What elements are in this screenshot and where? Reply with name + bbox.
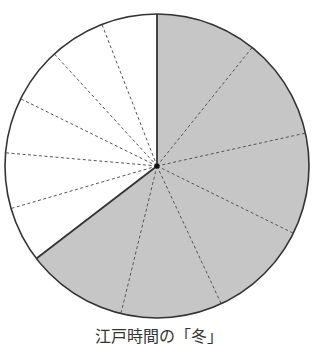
edo-winter-pie-chart: [0, 0, 317, 322]
chart-caption: 江戸時間の「冬」: [0, 322, 317, 352]
center-dot: [154, 163, 159, 168]
